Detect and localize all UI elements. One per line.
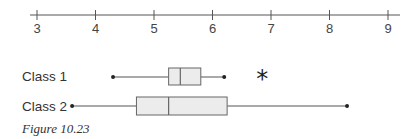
max-point — [345, 104, 349, 108]
tick-label: 5 — [150, 21, 157, 36]
class-2-label: Class 2 — [22, 99, 67, 114]
box-plot-chart: 3456789 Class 1 * Class 2 — [0, 0, 408, 139]
tick-label: 7 — [267, 21, 274, 36]
tick-label: 9 — [384, 21, 391, 36]
tick-label: 8 — [326, 21, 333, 36]
tick-label: 3 — [33, 21, 40, 36]
x-axis: 3456789 — [30, 10, 400, 36]
iqr-box — [136, 97, 227, 115]
tick-label: 6 — [209, 21, 216, 36]
class-1-label: Class 1 — [22, 69, 67, 84]
box-class-1: * — [111, 65, 268, 93]
min-point — [70, 104, 74, 108]
iqr-box — [169, 68, 201, 85]
min-point — [111, 75, 115, 79]
tick-label: 4 — [92, 21, 99, 36]
box-class-2 — [70, 97, 349, 115]
max-point — [222, 75, 226, 79]
figure-caption: Figure 10.23 — [22, 121, 89, 137]
outlier-asterisk-icon: * — [256, 65, 268, 93]
